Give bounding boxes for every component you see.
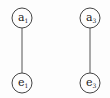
- node-a1: a1: [12, 8, 32, 28]
- graph-diagram: a1 a3 e1 e3: [0, 0, 110, 98]
- node-a3: a3: [80, 8, 100, 28]
- node-e1: e1: [12, 73, 32, 93]
- node-e3: e3: [80, 73, 100, 93]
